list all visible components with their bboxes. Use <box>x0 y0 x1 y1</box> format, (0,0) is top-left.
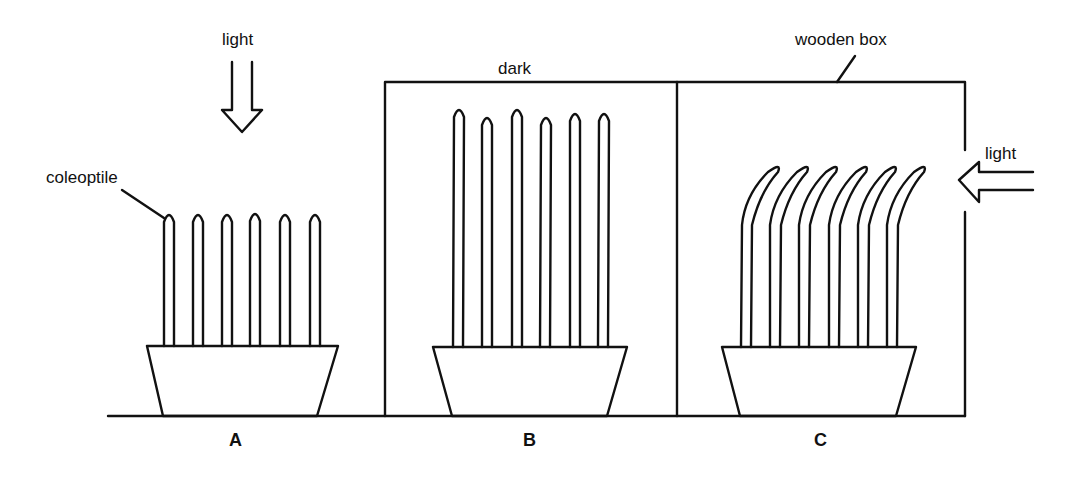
caption-c: C <box>814 430 827 450</box>
light-arrow-left-icon <box>959 162 1033 202</box>
panel-a: light coleoptile A <box>46 30 338 450</box>
wooden-box: wooden box <box>385 30 965 416</box>
caption-b: B <box>523 430 536 450</box>
light-label-top: light <box>222 30 253 49</box>
pot-b <box>433 347 627 416</box>
pot-a <box>147 346 338 416</box>
coleoptiles-a <box>164 214 320 346</box>
pot-c <box>722 347 916 416</box>
phototropism-diagram: light coleoptile A wooden box dark <box>0 0 1074 478</box>
light-label-side: light <box>985 144 1016 163</box>
coleoptile-label: coleoptile <box>46 168 118 187</box>
panel-c: light C <box>722 144 1033 450</box>
wooden-box-label: wooden box <box>794 30 887 49</box>
wooden-box-pointer <box>837 56 855 82</box>
coleoptile-pointer <box>122 190 164 218</box>
dark-label: dark <box>498 59 532 78</box>
light-arrow-down-icon <box>222 62 262 132</box>
caption-a: A <box>229 430 242 450</box>
coleoptiles-b <box>453 110 609 347</box>
panel-b: dark B <box>433 59 627 450</box>
coleoptiles-c <box>741 167 925 347</box>
